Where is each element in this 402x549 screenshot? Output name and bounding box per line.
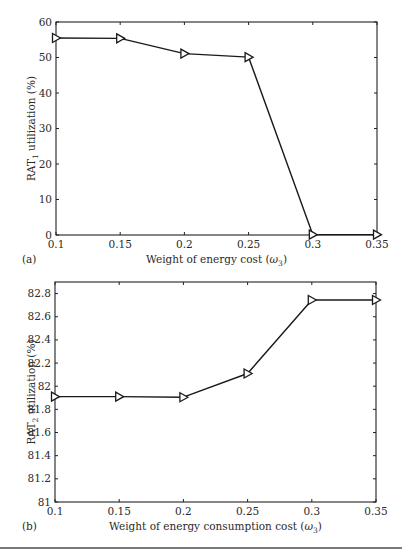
y-tick-label: 82.8 [28, 287, 51, 299]
y-tick-label: 10 [39, 193, 52, 205]
y-tick-label: 81.2 [28, 472, 51, 484]
x-axis-label: Weight of energy cost (ω3) [146, 253, 287, 268]
plot-frame [56, 22, 377, 235]
y-tick-label: 82 [38, 380, 51, 392]
y-tick-label: 40 [39, 87, 52, 99]
x-tick-label: 0.2 [175, 505, 192, 517]
figure: 0.10.150.20.250.30.350102030405060Weight… [0, 0, 402, 549]
x-tick-label: 0.3 [304, 238, 321, 250]
y-tick-label: 82.6 [28, 310, 52, 322]
data-series-line [56, 38, 377, 235]
x-tick-label: 0.3 [303, 505, 320, 517]
triangle-right-marker-icon [181, 49, 189, 58]
chart-panel-a: 0.10.150.20.250.30.350102030405060Weight… [22, 16, 389, 269]
x-tick-label: 0.15 [108, 505, 131, 517]
x-tick-label: 0.35 [364, 505, 387, 517]
x-tick-label: 0.2 [176, 238, 193, 250]
x-tick-label: 0.25 [236, 505, 259, 517]
triangle-right-marker-icon [116, 392, 124, 401]
y-tick-label: 20 [39, 158, 52, 170]
y-tick-label: 50 [39, 51, 52, 63]
x-axis-label: Weight of energy consumption cost (ω3) [109, 520, 322, 535]
plot-frame [55, 282, 376, 502]
y-tick-label: 81.4 [28, 449, 52, 461]
panel-label: (a) [22, 253, 36, 265]
triangle-right-marker-icon [180, 393, 188, 402]
triangle-right-marker-icon [308, 295, 316, 304]
x-tick-label: 0.25 [237, 238, 260, 250]
y-tick-label: 0 [45, 229, 52, 241]
data-series-line [55, 300, 376, 397]
x-tick-label: 0.35 [365, 238, 388, 250]
panel-label: (b) [22, 520, 37, 532]
y-tick-label: 81 [38, 496, 51, 508]
triangle-right-marker-icon [117, 34, 125, 43]
chart-panel-b: 0.10.150.20.250.30.358181.281.481.681.88… [22, 282, 388, 535]
x-tick-label: 0.15 [109, 238, 132, 250]
y-tick-label: 60 [39, 16, 52, 28]
y-tick-label: 30 [39, 122, 52, 134]
